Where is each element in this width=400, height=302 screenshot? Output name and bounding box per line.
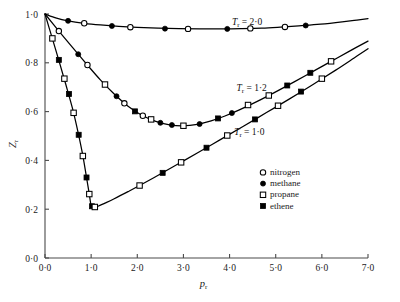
y-tick-label: 0·6 — [25, 107, 38, 117]
marker-open-square — [319, 76, 324, 81]
marker-open-square — [80, 153, 85, 158]
y-tick-label: 0·4 — [25, 156, 38, 166]
marker-filled-square — [285, 83, 290, 88]
y-tick-label: 0·8 — [25, 58, 38, 68]
legend-marker-filled-circle — [261, 181, 266, 186]
legend-marker-open-circle — [260, 170, 265, 175]
marker-filled-square — [160, 170, 165, 175]
marker-filled-square — [308, 70, 313, 75]
legend-marker-open-square — [260, 192, 265, 197]
marker-open-square — [275, 103, 280, 108]
marker-open-square — [87, 191, 92, 196]
marker-open-square — [328, 59, 333, 64]
legend-label-propane: propane — [270, 189, 299, 199]
marker-open-square — [178, 160, 183, 165]
marker-filled-circle — [162, 26, 167, 31]
x-tick-label: 4·0 — [223, 263, 236, 273]
marker-open-circle — [85, 62, 90, 67]
marker-open-circle — [122, 101, 127, 106]
compressibility-factor-chart: 0·01·02·03·04·05·06·07·00·00·20·40·60·81… — [0, 0, 400, 302]
marker-open-circle — [56, 28, 61, 33]
y-tick-label: 0·0 — [25, 254, 38, 264]
marker-filled-circle — [229, 111, 234, 116]
x-tick-label: 3·0 — [177, 263, 190, 273]
legend-label-methane: methane — [270, 178, 301, 188]
marker-open-square — [225, 133, 230, 138]
x-tick-label: 1·0 — [85, 263, 98, 273]
marker-filled-square — [84, 175, 89, 180]
marker-filled-square — [76, 132, 81, 137]
marker-filled-square — [66, 92, 71, 97]
legend-marker-filled-square — [261, 204, 266, 209]
marker-filled-circle — [197, 122, 202, 127]
marker-open-square — [92, 204, 97, 209]
marker-filled-circle — [114, 94, 119, 99]
marker-filled-circle — [158, 120, 163, 125]
y-tick-label: 1·0 — [25, 10, 38, 20]
marker-filled-square — [56, 57, 61, 62]
marker-open-circle — [140, 113, 145, 118]
marker-open-circle — [82, 21, 87, 26]
marker-open-square — [181, 123, 186, 128]
marker-open-square — [71, 110, 76, 115]
marker-filled-circle — [76, 52, 81, 57]
marker-filled-circle — [66, 18, 71, 23]
annotation-tr-1-2: Tr = 1·2 — [236, 83, 267, 94]
marker-open-square — [62, 76, 67, 81]
marker-filled-square — [216, 116, 221, 121]
annotation-tr-2-0: Tr = 2·0 — [232, 17, 263, 28]
marker-filled-circle — [303, 23, 308, 28]
marker-open-circle — [185, 26, 190, 31]
marker-open-square — [148, 117, 153, 122]
marker-filled-square — [132, 109, 137, 114]
marker-filled-circle — [109, 23, 114, 28]
x-tick-label: 7·0 — [362, 263, 375, 273]
x-tick-label: 5·0 — [269, 263, 282, 273]
marker-open-square — [102, 82, 107, 87]
marker-open-square — [137, 183, 142, 188]
marker-open-square — [245, 102, 250, 107]
legend-label-ethene: ethene — [270, 201, 293, 211]
marker-open-circle — [282, 24, 287, 29]
marker-open-square — [266, 93, 271, 98]
x-tick-label: 6·0 — [316, 263, 329, 273]
x-tick-label: 2·0 — [131, 263, 144, 273]
legend-label-nitrogen: nitrogen — [270, 167, 300, 177]
marker-open-square — [50, 36, 55, 41]
y-tick-label: 0·2 — [25, 205, 38, 215]
annotation-tr-1-0: Tr = 1·0 — [234, 127, 265, 138]
x-tick-label: 0·0 — [39, 263, 52, 273]
marker-filled-circle — [169, 123, 174, 128]
marker-open-circle — [128, 24, 133, 29]
marker-filled-square — [299, 89, 304, 94]
marker-filled-square — [252, 117, 257, 122]
marker-filled-circle — [225, 26, 230, 31]
marker-filled-square — [204, 145, 209, 150]
